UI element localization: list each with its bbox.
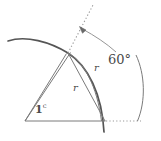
degree-symbol-icon: ° [125, 52, 132, 67]
angle-leader-arrowhead [80, 27, 87, 34]
angle-degrees-label: 60° [108, 53, 131, 66]
radian-angle-label: 1c [35, 103, 46, 115]
radius-label-upper: r [94, 63, 99, 73]
angle-leader-line [83, 29, 117, 52]
radian-superscript: c [43, 102, 47, 110]
diagram-canvas [0, 0, 161, 141]
angle-degrees-value: 60 [108, 52, 125, 67]
outer-circle-arc [8, 39, 104, 132]
degree-measure-arc [136, 55, 143, 121]
geometry-diagram: 60° 1c r r [0, 0, 161, 141]
radius-label-lower: r [73, 83, 78, 93]
radian-value: 1 [35, 103, 43, 116]
